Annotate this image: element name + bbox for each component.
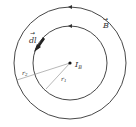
dl-label: dl — [29, 36, 37, 45]
r1-label: r1 — [61, 75, 66, 83]
inner-direction-arrow-icon — [68, 24, 72, 28]
b-vector-bar: → — [103, 15, 108, 22]
current-dot — [68, 61, 71, 64]
outer-direction-arrow-icon — [68, 5, 72, 9]
b-field-label: B — [102, 21, 109, 30]
current-label: IB — [74, 60, 82, 70]
ampere-law-diagram: dl → B → IB r1 r2 — [0, 0, 136, 127]
r2-label: r2 — [22, 69, 28, 77]
dl-vector-bar: → — [30, 29, 35, 36]
